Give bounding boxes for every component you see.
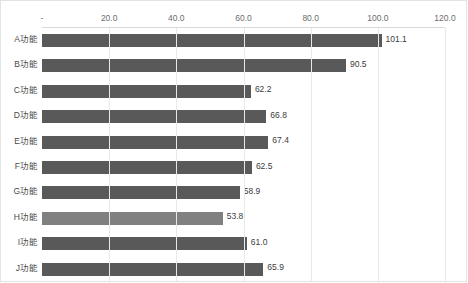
category-label-J功能: J功能 xyxy=(0,256,38,281)
bar-J功能[interactable] xyxy=(42,263,263,276)
category-label-H功能: H功能 xyxy=(0,205,38,230)
bar-H功能[interactable] xyxy=(42,212,223,225)
x-axis-tick-1: 20.0 xyxy=(101,13,118,23)
x-axis-tick-labels: -20.040.060.080.0100.0120.0 xyxy=(0,13,468,26)
category-label-I功能: I功能 xyxy=(0,230,38,255)
bar-value-label: 90.5 xyxy=(346,59,367,69)
category-label-G功能: G功能 xyxy=(0,179,38,204)
bar-B功能[interactable] xyxy=(42,59,346,72)
category-label-B功能: B功能 xyxy=(0,52,38,77)
bar-value-label: 101.1 xyxy=(382,34,407,44)
x-axis-tick-2: 40.0 xyxy=(168,13,185,23)
bar-F功能[interactable] xyxy=(42,161,252,174)
category-label-E功能: E功能 xyxy=(0,129,38,154)
bar-C功能[interactable] xyxy=(42,85,251,98)
gridline-3 xyxy=(244,28,245,281)
gridline-2 xyxy=(176,28,177,281)
bar-E功能[interactable] xyxy=(42,136,268,149)
x-axis-tick-0: - xyxy=(41,13,44,23)
bar-value-label: 61.0 xyxy=(247,237,268,247)
bar-D功能[interactable] xyxy=(42,110,266,123)
bar-G功能[interactable] xyxy=(42,186,240,199)
category-label-F功能: F功能 xyxy=(0,154,38,179)
x-axis-tick-3: 60.0 xyxy=(235,13,252,23)
plot-area: 101.190.562.266.867.462.558.953.861.065.… xyxy=(42,27,445,281)
bar-chart: 各功能平均使用时长对比 -20.040.060.080.0100.0120.0 … xyxy=(0,0,468,283)
bar-A功能[interactable] xyxy=(42,34,382,47)
gridline-1 xyxy=(109,28,110,281)
category-label-D功能: D功能 xyxy=(0,103,38,128)
y-axis-category-labels: A功能B功能C功能D功能E功能F功能G功能H功能I功能J功能 xyxy=(0,27,40,281)
gridline-5 xyxy=(378,28,379,281)
x-axis-tick-4: 80.0 xyxy=(302,13,319,23)
bar-value-label: 67.4 xyxy=(268,135,289,145)
bar-value-label: 62.2 xyxy=(251,84,272,94)
x-axis-tick-6: 120.0 xyxy=(434,13,455,23)
bar-value-label: 65.9 xyxy=(263,262,284,272)
category-label-A功能: A功能 xyxy=(0,27,38,52)
gridline-4 xyxy=(311,28,312,281)
x-axis-tick-5: 100.0 xyxy=(367,13,388,23)
bar-I功能[interactable] xyxy=(42,237,247,250)
bar-value-label: 66.8 xyxy=(266,110,287,120)
gridline-6 xyxy=(445,28,446,281)
category-label-C功能: C功能 xyxy=(0,78,38,103)
bar-value-label: 53.8 xyxy=(223,211,244,221)
bar-value-label: 62.5 xyxy=(252,161,273,171)
